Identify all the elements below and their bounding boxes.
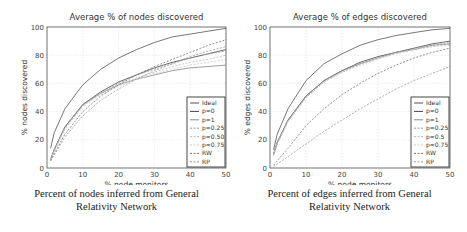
legend-entry: p=0 bbox=[202, 107, 215, 115]
x-tick-label: 30 bbox=[150, 171, 159, 179]
x-tick-label: 50 bbox=[222, 171, 231, 179]
chart-title: Average % of nodes discovered bbox=[70, 12, 204, 22]
legend-entry: p=0.25 bbox=[426, 124, 448, 132]
legend: Idealp=0p=1p=0.25p=0.5p=0.75RWRP bbox=[411, 97, 449, 167]
legend-entry: p=0 bbox=[426, 107, 439, 115]
legend-entry: Ideal bbox=[202, 99, 217, 106]
legend-entry: RW bbox=[426, 149, 436, 156]
x-tick-label: 30 bbox=[374, 171, 383, 179]
y-tick-label: 60 bbox=[35, 80, 44, 88]
x-tick-label: 20 bbox=[338, 171, 347, 179]
y-tick-label: 100 bbox=[31, 24, 44, 32]
y-tick-label: 20 bbox=[35, 136, 44, 144]
legend-entry: Ideal bbox=[426, 99, 441, 106]
edges-chart-caption: Percent of edges inferred from General R… bbox=[233, 187, 466, 213]
legend-entry: p=0.75 bbox=[426, 141, 448, 149]
x-tick-label: 40 bbox=[186, 171, 195, 179]
legend-entry: p=0.25 bbox=[202, 124, 224, 132]
legend-entry: p=1 bbox=[202, 116, 215, 124]
chart-title: Average % of edges discovered bbox=[293, 12, 427, 22]
x-tick-label: 10 bbox=[78, 171, 87, 179]
edges-chart-panel: Average % of edges discovered01020304050… bbox=[233, 0, 466, 232]
caption-line-1: Percent of edges inferred from General bbox=[233, 187, 466, 200]
x-tick-label: 10 bbox=[302, 171, 311, 179]
y-tick-label: 40 bbox=[35, 108, 44, 116]
caption-line-1: Percent of nodes inferred from General bbox=[0, 187, 233, 200]
y-tick-label: 80 bbox=[35, 52, 44, 60]
nodes-chart-caption: Percent of nodes inferred from General R… bbox=[0, 187, 233, 213]
legend-entry: RP bbox=[202, 158, 210, 165]
legend-entry: RP bbox=[426, 158, 434, 165]
legend-entry: p=1 bbox=[426, 116, 439, 124]
legend-entry: p=0.5 bbox=[426, 133, 445, 141]
edges-discovered-chart: Average % of edges discovered01020304050… bbox=[233, 0, 467, 185]
y-axis-label: % nodes discovered bbox=[20, 60, 29, 136]
x-tick-label: 50 bbox=[446, 171, 455, 179]
x-tick-label: 0 bbox=[268, 171, 272, 179]
caption-line-2: Relativity Network bbox=[233, 200, 466, 213]
legend: Idealp=0p=1p=0.25p=0.50p=0.75RWRP bbox=[187, 97, 225, 167]
y-axis-label: % edges discovered bbox=[243, 60, 252, 136]
y-tick-label: 60 bbox=[258, 80, 267, 88]
y-tick-label: 80 bbox=[258, 52, 267, 60]
x-axis-label: % node monitors bbox=[328, 180, 392, 185]
nodes-discovered-chart: Average % of nodes discovered01020304050… bbox=[0, 0, 233, 185]
y-tick-label: 0 bbox=[263, 165, 267, 173]
y-tick-label: 0 bbox=[40, 165, 44, 173]
x-tick-label: 40 bbox=[410, 171, 419, 179]
legend-entry: RW bbox=[202, 149, 212, 156]
x-tick-label: 20 bbox=[114, 171, 123, 179]
y-tick-label: 100 bbox=[254, 24, 267, 32]
y-tick-label: 40 bbox=[258, 108, 267, 116]
x-tick-label: 0 bbox=[45, 171, 49, 179]
caption-line-2: Relativity Network bbox=[0, 200, 233, 213]
legend-entry: p=0.50 bbox=[202, 133, 224, 141]
y-tick-label: 20 bbox=[258, 136, 267, 144]
legend-entry: p=0.75 bbox=[202, 141, 224, 149]
nodes-chart-panel: Average % of nodes discovered01020304050… bbox=[0, 0, 233, 232]
x-axis-label: % node monitors bbox=[105, 180, 169, 185]
